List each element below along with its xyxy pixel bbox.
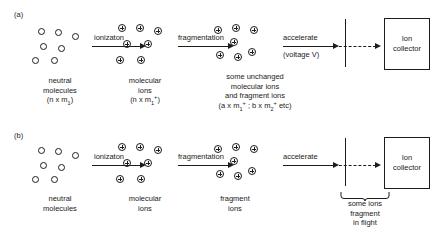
- particle-ion: [232, 24, 240, 32]
- particle-neutral-molecule: [58, 45, 65, 52]
- collector-line: collector: [393, 44, 421, 54]
- caption-line: in flight: [325, 218, 405, 228]
- particle-molecular-ion: [144, 159, 152, 167]
- particle-fragment-ion: [214, 145, 222, 153]
- particle-molecular-ion: [144, 40, 152, 48]
- particle-fragment-ion: [216, 170, 224, 178]
- cluster-mixed-ions-a: [210, 24, 272, 70]
- particle-fragment-ion: [230, 157, 238, 165]
- caption-fragment-ions-b: fragment ions: [195, 194, 275, 213]
- caption-line: ions: [105, 86, 185, 96]
- collector-line: collector: [393, 163, 421, 173]
- ion-collector-b: Ion collector: [384, 137, 430, 189]
- particle-neutral-molecule: [55, 29, 62, 36]
- caption-formula: (n x m1): [20, 95, 100, 105]
- acceleration-grid-b: [345, 138, 346, 186]
- caption-mixed-ions-a: some unchanged molecular ions and fragme…: [190, 72, 320, 110]
- caption-neutral-molecules-a: neutral molecules (n x m1): [20, 76, 100, 105]
- caption-line: fragment: [325, 209, 405, 219]
- caption-molecular-ions-a: molecular ions (n x m1+): [105, 76, 185, 105]
- cluster-fragment-ions-b: [210, 143, 272, 189]
- particle-neutral-molecule: [40, 162, 47, 169]
- flight-region-brace: [340, 188, 390, 198]
- particle-molecular-ion: [154, 146, 162, 154]
- particle-neutral-molecule: [58, 164, 65, 171]
- particle-neutral-molecule: [32, 57, 39, 64]
- ion-collector-label: Ion collector: [393, 153, 421, 173]
- caption-line: and fragment ions: [190, 91, 320, 101]
- drift-path-a: [334, 46, 376, 47]
- particle-neutral-molecule: [51, 176, 58, 183]
- particle-ion: [216, 51, 224, 59]
- caption-neutral-molecules-b: neutral molecules: [20, 194, 100, 213]
- caption-line: molecular ions: [190, 82, 320, 92]
- particle-molecular-ion: [118, 143, 126, 151]
- particle-ion: [214, 26, 222, 34]
- ion-collector-a: Ion collector: [384, 18, 430, 70]
- collector-line: Ion: [393, 34, 421, 44]
- caption-flight-fragmentation: some ions fragment in flight: [325, 199, 405, 228]
- arrow-sublabel: (voltage V): [283, 50, 319, 59]
- caption-formula: (n x m1+): [105, 95, 185, 105]
- particle-neutral-molecule: [38, 28, 45, 35]
- cluster-molecular-ions-b: [114, 143, 176, 189]
- particle-fragment-ion: [232, 143, 240, 151]
- particle-molecular-ion: [154, 27, 162, 35]
- particle-neutral-molecule: [72, 152, 79, 159]
- particle-molecular-ion: [123, 40, 131, 48]
- collector-line: Ion: [393, 153, 421, 163]
- cluster-molecular-ions-a: [114, 24, 176, 70]
- particle-neutral-molecule: [72, 33, 79, 40]
- caption-line: molecules: [20, 204, 100, 214]
- ion-collector-label: Ion collector: [393, 34, 421, 54]
- caption-line: ions: [195, 204, 275, 214]
- arrow-label: accelerate: [283, 33, 318, 42]
- caption-line: some ions: [325, 199, 405, 209]
- particle-ion: [230, 38, 238, 46]
- caption-line: neutral: [20, 194, 100, 204]
- particle-fragment-ion: [250, 145, 258, 153]
- particle-neutral-molecule: [38, 147, 45, 154]
- cluster-neutral-molecules-b: [30, 145, 92, 189]
- particle-neutral-molecule: [55, 148, 62, 155]
- particle-molecular-ion: [136, 143, 144, 151]
- arrow-label: accelerate: [283, 152, 318, 161]
- particle-molecular-ion: [116, 56, 124, 64]
- cluster-neutral-molecules-a: [30, 26, 92, 70]
- caption-line: molecules: [20, 86, 100, 96]
- particle-ion: [234, 53, 242, 61]
- particle-molecular-ion: [118, 24, 126, 32]
- caption-line: ions: [105, 204, 185, 214]
- drift-arrowhead-a: [375, 43, 381, 49]
- caption-formula: (a x m1+ ; b x m2+ etc): [190, 101, 320, 111]
- particle-neutral-molecule: [32, 176, 39, 183]
- particle-fragment-ion: [234, 172, 242, 180]
- particle-molecular-ion: [137, 56, 145, 64]
- caption-line: fragment: [195, 194, 275, 204]
- particle-ion: [248, 48, 256, 56]
- caption-line: neutral: [20, 76, 100, 86]
- caption-line: molecular: [105, 76, 185, 86]
- drift-arrowhead-b: [375, 162, 381, 168]
- panel-label-a: (a): [14, 10, 23, 19]
- drift-path-b: [334, 165, 376, 166]
- panel-label-b: (b): [14, 131, 23, 140]
- particle-molecular-ion: [123, 159, 131, 167]
- particle-fragment-ion: [248, 167, 256, 175]
- mass-spectrometry-diagram: (a) neutral molecules (n x m1) ionizaton…: [0, 0, 438, 241]
- caption-line: molecular: [105, 194, 185, 204]
- particle-molecular-ion: [136, 24, 144, 32]
- particle-ion: [250, 26, 258, 34]
- particle-neutral-molecule: [40, 43, 47, 50]
- particle-molecular-ion: [137, 175, 145, 183]
- caption-line: some unchanged: [190, 72, 320, 82]
- particle-neutral-molecule: [51, 57, 58, 64]
- particle-molecular-ion: [116, 175, 124, 183]
- caption-molecular-ions-b: molecular ions: [105, 194, 185, 213]
- acceleration-grid-a: [345, 19, 346, 67]
